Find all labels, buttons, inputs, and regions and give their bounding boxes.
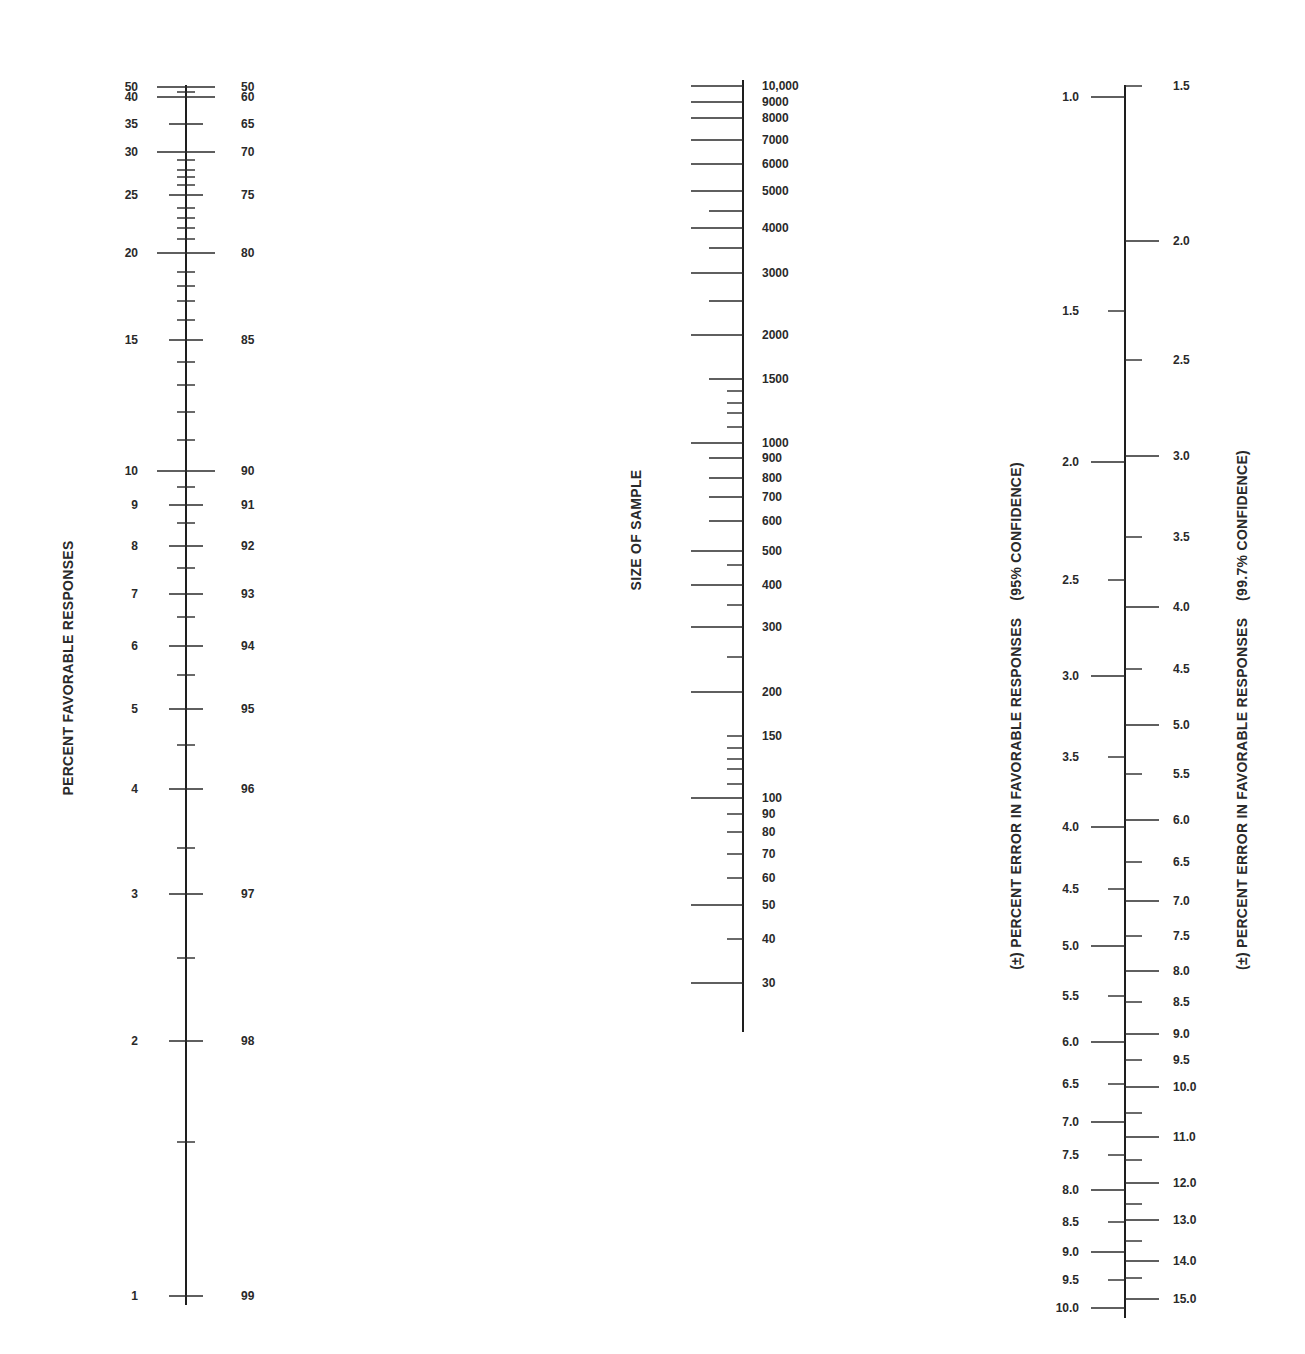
sample-size-axis-title: SIZE OF SAMPLE	[628, 470, 644, 591]
tick-label: 1000	[762, 436, 789, 450]
tick-label-left: 2	[131, 1034, 138, 1048]
tick-label-997: 3.0	[1173, 449, 1190, 463]
tick-label-997: 3.5	[1173, 530, 1190, 544]
tick-label-95: 1.0	[1062, 90, 1079, 104]
tick-label: 600	[762, 514, 782, 528]
tick-label-997: 8.5	[1173, 995, 1190, 1009]
tick-label: 4000	[762, 221, 789, 235]
nomogram-chart: 5050406035653070257520801585109099189279…	[0, 0, 1305, 1354]
sample-size-scale: 10,0009000800070006000500040003000200015…	[691, 79, 799, 1032]
tick-label-997: 1.5	[1173, 79, 1190, 93]
tick-label-left: 15	[125, 333, 139, 347]
tick-label: 8000	[762, 111, 789, 125]
tick-label-left: 5	[131, 702, 138, 716]
tick-label: 80	[762, 825, 776, 839]
error-95-axis-title: (±) PERCENT ERROR IN FAVORABLE RESPONSES…	[1008, 462, 1024, 970]
tick-label-997: 9.5	[1173, 1053, 1190, 1067]
tick-label-right: 85	[241, 333, 255, 347]
tick-label-95: 8.0	[1062, 1183, 1079, 1197]
tick-label: 70	[762, 847, 776, 861]
tick-label-right: 96	[241, 782, 255, 796]
tick-label-left: 9	[131, 498, 138, 512]
tick-label-95: 6.5	[1062, 1077, 1079, 1091]
tick-label: 90	[762, 807, 776, 821]
tick-label-right: 91	[241, 498, 255, 512]
tick-label-left: 30	[125, 145, 139, 159]
tick-label-997: 14.0	[1173, 1254, 1197, 1268]
tick-label: 5000	[762, 184, 789, 198]
tick-label-997: 5.0	[1173, 718, 1190, 732]
tick-label-997: 5.5	[1173, 767, 1190, 781]
tick-label-997: 6.0	[1173, 813, 1190, 827]
tick-label-right: 93	[241, 587, 255, 601]
tick-label-left: 6	[131, 639, 138, 653]
tick-label-95: 10.0	[1056, 1301, 1080, 1315]
tick-label-left: 1	[131, 1289, 138, 1303]
tick-label: 6000	[762, 157, 789, 171]
tick-label: 200	[762, 685, 782, 699]
tick-label-997: 10.0	[1173, 1080, 1197, 1094]
tick-label-95: 9.5	[1062, 1273, 1079, 1287]
tick-label-997: 2.5	[1173, 353, 1190, 367]
tick-label-left: 4	[131, 782, 138, 796]
tick-label: 40	[762, 932, 776, 946]
tick-label-right: 92	[241, 539, 255, 553]
tick-label: 100	[762, 791, 782, 805]
tick-label-997: 11.0	[1173, 1130, 1196, 1144]
tick-label-95: 4.5	[1062, 882, 1079, 896]
tick-label-997: 4.0	[1173, 600, 1190, 614]
tick-label-997: 15.0	[1173, 1292, 1197, 1306]
tick-label: 10,000	[762, 79, 799, 93]
tick-label-997: 4.5	[1173, 662, 1190, 676]
tick-label-95: 6.0	[1062, 1035, 1079, 1049]
tick-label-95: 9.0	[1062, 1245, 1079, 1259]
tick-label-95: 1.5	[1062, 304, 1079, 318]
tick-label-right: 75	[241, 188, 255, 202]
tick-label: 150	[762, 729, 782, 743]
tick-label: 300	[762, 620, 782, 634]
tick-label: 700	[762, 490, 782, 504]
percent-favorable-scale: 5050406035653070257520801585109099189279…	[125, 80, 255, 1305]
error-997-axis-title: (±) PERCENT ERROR IN FAVORABLE RESPONSES…	[1234, 450, 1250, 970]
tick-label-997: 7.5	[1173, 929, 1190, 943]
tick-label-997: 7.0	[1173, 894, 1190, 908]
tick-label-right: 70	[241, 145, 255, 159]
tick-label-95: 8.5	[1062, 1215, 1079, 1229]
tick-label-997: 6.5	[1173, 855, 1190, 869]
tick-label-95: 3.5	[1062, 750, 1079, 764]
tick-label: 500	[762, 544, 782, 558]
tick-label: 400	[762, 578, 782, 592]
tick-label-right: 90	[241, 464, 255, 478]
tick-label-997: 2.0	[1173, 234, 1190, 248]
tick-label: 3000	[762, 266, 789, 280]
tick-label-95: 2.5	[1062, 573, 1079, 587]
tick-label-95: 7.5	[1062, 1148, 1079, 1162]
tick-label-left: 25	[125, 188, 139, 202]
tick-label-95: 4.0	[1062, 820, 1079, 834]
tick-label-left: 8	[131, 539, 138, 553]
percent-favorable-axis-title: PERCENT FAVORABLE RESPONSES	[60, 540, 76, 795]
tick-label: 30	[762, 976, 776, 990]
tick-label-left: 35	[125, 117, 139, 131]
tick-label-997: 12.0	[1173, 1176, 1197, 1190]
tick-label-left: 40	[125, 90, 139, 104]
tick-label-left: 3	[131, 887, 138, 901]
tick-label-left: 20	[125, 246, 139, 260]
tick-label: 9000	[762, 95, 789, 109]
tick-label: 60	[762, 871, 776, 885]
tick-label: 1500	[762, 372, 789, 386]
tick-label-95: 5.5	[1062, 989, 1079, 1003]
tick-label-95: 5.0	[1062, 939, 1079, 953]
tick-label-997: 8.0	[1173, 964, 1190, 978]
tick-label-right: 94	[241, 639, 255, 653]
tick-label: 900	[762, 451, 782, 465]
tick-label: 50	[762, 898, 776, 912]
tick-label-right: 80	[241, 246, 255, 260]
tick-label-95: 3.0	[1062, 669, 1079, 683]
tick-label-95: 2.0	[1062, 455, 1079, 469]
tick-label-right: 95	[241, 702, 255, 716]
percent-error-scale: 1.01.52.02.53.03.54.04.55.05.56.06.57.07…	[1056, 79, 1197, 1318]
tick-label-right: 65	[241, 117, 255, 131]
tick-label-left: 7	[131, 587, 138, 601]
tick-label: 800	[762, 471, 782, 485]
